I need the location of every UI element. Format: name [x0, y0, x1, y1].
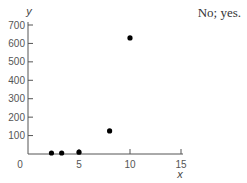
y-tick-label: 700: [8, 20, 25, 31]
data-point: [49, 150, 54, 155]
x-tick-label: 0: [17, 159, 23, 170]
y-axis-label: y: [25, 5, 33, 17]
data-point: [76, 150, 81, 155]
y-tick-label: 600: [8, 38, 25, 49]
y-tick-label: 400: [8, 75, 25, 86]
scatter-plot: 051015100200300400500600700 x y: [0, 0, 247, 183]
y-tick-label: 100: [8, 130, 25, 141]
data-point: [107, 128, 112, 133]
x-tick-label: 5: [76, 159, 82, 170]
y-tick-label: 500: [8, 56, 25, 67]
tick-labels: 051015100200300400500600700: [8, 20, 187, 171]
tick-marks: [28, 25, 181, 154]
x-tick-label: 10: [124, 159, 136, 170]
data-points: [49, 35, 133, 155]
x-axis-label: x: [176, 168, 183, 180]
y-tick-label: 200: [8, 112, 25, 123]
y-tick-label: 300: [8, 93, 25, 104]
data-point: [59, 150, 64, 155]
data-point: [127, 35, 132, 40]
axes: [28, 22, 183, 154]
